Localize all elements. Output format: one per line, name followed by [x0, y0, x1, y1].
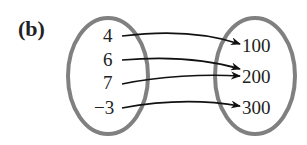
domain-value: 6 [103, 49, 113, 70]
arrow-6-to-200 [122, 58, 240, 69]
domain-value: −3 [94, 97, 114, 118]
figure-label: (b) [18, 16, 45, 41]
mapping-diagram: (b) 4 6 7 −3 100 200 300 [0, 0, 307, 145]
domain-value: 7 [103, 72, 113, 93]
range-value: 300 [242, 97, 271, 118]
domain-value: 4 [103, 25, 113, 46]
range-value: 100 [242, 35, 271, 56]
arrow-7-to-200 [122, 75, 240, 84]
range-value: 200 [242, 66, 271, 87]
